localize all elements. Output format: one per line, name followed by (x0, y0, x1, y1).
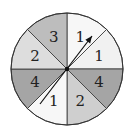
sector-label: 3 (49, 28, 59, 46)
sector-label: 4 (30, 73, 40, 91)
spinner-hub (65, 67, 69, 71)
sector-label: 4 (94, 73, 104, 91)
spinner-diagram: 11421423 (0, 0, 131, 134)
sector-label: 2 (76, 92, 86, 110)
sector-label: 1 (94, 47, 104, 65)
sector-label: 2 (30, 47, 40, 65)
sector-label: 1 (49, 92, 59, 110)
sector-label: 1 (76, 28, 86, 46)
